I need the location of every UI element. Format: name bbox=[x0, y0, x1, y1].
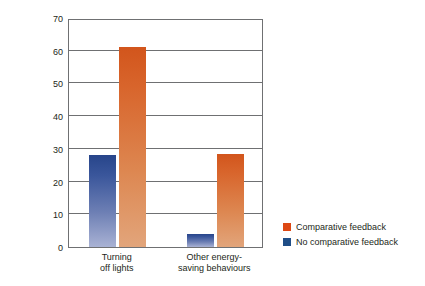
legend-item-label: No comparative feedback bbox=[296, 236, 398, 248]
x-axis-group-label: Turning off lights bbox=[62, 252, 172, 274]
y-axis-tick-label: 50 bbox=[23, 79, 63, 89]
y-axis-tick-label: 0 bbox=[23, 243, 63, 253]
bar bbox=[187, 234, 214, 247]
y-axis-tick-label: 30 bbox=[23, 145, 63, 155]
gridline bbox=[69, 50, 262, 51]
bar bbox=[217, 154, 244, 247]
y-axis-tick-label: 10 bbox=[23, 210, 63, 220]
gridline bbox=[69, 148, 262, 149]
legend-swatch-no-comparative bbox=[283, 238, 291, 246]
y-axis-tick-label: 20 bbox=[23, 178, 63, 188]
gridline bbox=[69, 82, 262, 83]
x-axis-group-label: Other energy- saving behaviours bbox=[159, 252, 269, 274]
gridline bbox=[69, 115, 262, 116]
bar-chart: Percentage improvement 706050403020100 T… bbox=[0, 0, 425, 286]
plot-area bbox=[68, 19, 263, 248]
legend-item: Comparative feedback bbox=[283, 221, 398, 233]
legend-swatch-comparative bbox=[283, 223, 291, 231]
bar bbox=[89, 155, 116, 247]
y-axis-tick-label: 60 bbox=[23, 47, 63, 57]
y-axis-tick-label: 70 bbox=[23, 14, 63, 24]
bar bbox=[119, 47, 146, 247]
legend-item: No comparative feedback bbox=[283, 236, 398, 248]
y-axis-tick-label: 40 bbox=[23, 112, 63, 122]
legend-item-label: Comparative feedback bbox=[296, 221, 386, 233]
legend: Comparative feedbackNo comparative feedb… bbox=[283, 221, 398, 251]
